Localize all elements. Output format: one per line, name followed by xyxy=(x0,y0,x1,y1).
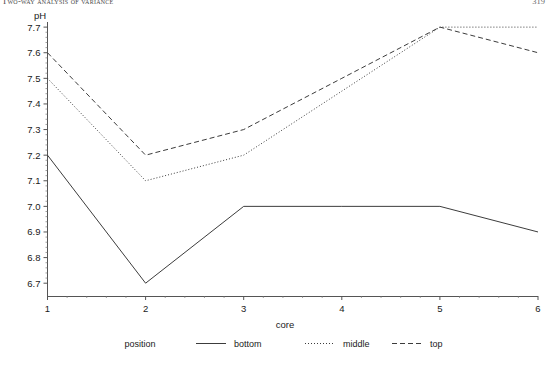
y-tick-label: 7.6 xyxy=(27,47,40,58)
y-tick-label: 7.0 xyxy=(27,201,40,212)
y-tick-label: 7.1 xyxy=(27,175,40,186)
legend-title: position xyxy=(124,339,155,349)
x-tick-label: 6 xyxy=(535,303,540,314)
y-axis-ticks: 6.76.86.97.07.17.27.37.47.57.67.7 xyxy=(27,22,47,289)
y-tick-label: 6.7 xyxy=(27,278,40,289)
plot-area: 6.76.86.97.07.17.27.37.47.57.67.7 123456… xyxy=(0,0,549,365)
data-series-group xyxy=(48,27,539,283)
y-tick-label: 7.4 xyxy=(27,98,40,109)
x-tick-label: 2 xyxy=(143,303,148,314)
y-tick-label: 6.9 xyxy=(27,226,40,237)
y-tick-label: 7.5 xyxy=(27,73,40,84)
legend-label-top: top xyxy=(430,339,443,349)
legend-label-bottom: bottom xyxy=(234,339,262,349)
axis-minor-ticks xyxy=(46,32,519,298)
series-line-top xyxy=(48,27,539,155)
x-tick-label: 3 xyxy=(241,303,246,314)
x-axis-title: core xyxy=(276,319,294,330)
y-tick-label: 7.3 xyxy=(27,124,40,135)
x-tick-label: 1 xyxy=(45,303,50,314)
axes-group xyxy=(48,22,539,297)
line-chart-figure: 6.76.86.97.07.17.27.37.47.57.67.7 123456… xyxy=(0,0,549,365)
legend-label-middle: middle xyxy=(343,339,370,349)
y-tick-label: 7.2 xyxy=(27,150,40,161)
y-axis-title: pH xyxy=(34,10,46,21)
series-line-bottom xyxy=(48,155,539,283)
chart-legend: position bottommiddletop xyxy=(124,339,442,349)
x-tick-label: 4 xyxy=(339,303,344,314)
y-tick-label: 7.7 xyxy=(27,22,40,33)
x-tick-label: 5 xyxy=(437,303,442,314)
y-tick-label: 6.8 xyxy=(27,252,40,263)
x-axis-ticks: 123456 xyxy=(45,296,541,314)
